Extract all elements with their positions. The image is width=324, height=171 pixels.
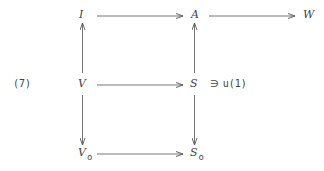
diagram-arrows — [0, 0, 324, 171]
node-i: I — [79, 9, 83, 21]
node-s: S — [190, 78, 198, 90]
node-s0-subscript: o — [199, 152, 204, 162]
membership-annotation: ∋u(1) — [210, 78, 247, 90]
equation-number: (7) — [13, 78, 31, 90]
element-of-symbol: ∋ — [210, 78, 219, 89]
node-w: W — [303, 9, 314, 21]
node-s0-label: S — [190, 146, 198, 159]
node-s0: So — [190, 147, 204, 163]
node-a: A — [191, 9, 199, 21]
node-v: V — [78, 78, 86, 90]
commutative-diagram: (7) I A W V S ∋u(1) Vo So — [0, 0, 324, 171]
annotation-value: u(1) — [223, 78, 247, 89]
node-v0-subscript: o — [87, 152, 92, 162]
node-v0: Vo — [78, 147, 92, 163]
node-v0-label: V — [78, 146, 86, 159]
